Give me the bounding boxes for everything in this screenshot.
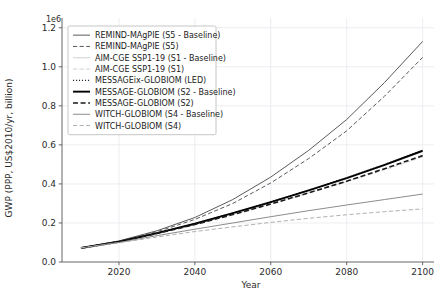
- legend-label-7: WITCH-GLOBIOM (S4 - Baseline): [95, 110, 223, 119]
- x-tick-label: 2080: [335, 267, 358, 277]
- legend-label-8: WITCH-GLOBIOM (S4): [95, 122, 181, 131]
- series-line-2: [81, 152, 423, 248]
- legend-label-6: MESSAGE-GLOBIOM (S2): [95, 99, 194, 108]
- legend-item-2[interactable]: AIM-CGE SSP1-19 (S1 - Baseline): [73, 54, 226, 63]
- legend-label-4: MESSAGEix-GLOBIOM (LED): [95, 76, 206, 85]
- series-line-4: [81, 150, 423, 248]
- legend-item-0[interactable]: REMIND-MAgPIE (S5 - Baseline): [73, 31, 220, 40]
- legend-item-5[interactable]: MESSAGE-GLOBIOM (S2 - Baseline): [73, 88, 236, 97]
- x-axis-title: Year: [240, 280, 260, 290]
- series-line-3: [81, 157, 423, 248]
- x-tick-label: 2060: [259, 267, 282, 277]
- y-tick-label: 1.0: [42, 62, 57, 72]
- x-tick-label: 2020: [107, 267, 130, 277]
- y-tick-label: 0.4: [42, 179, 57, 189]
- y-axis-offset-label: 1e6: [46, 15, 61, 24]
- y-tick-label: 0.0: [42, 257, 57, 267]
- figure-canvas: 0.00.20.40.60.81.01.22020204020602080210…: [0, 0, 444, 299]
- legend-label-2: AIM-CGE SSP1-19 (S1 - Baseline): [95, 54, 226, 63]
- legend[interactable]: REMIND-MAgPIE (S5 - Baseline)REMIND-MAgP…: [68, 26, 236, 135]
- x-tick-label: 2040: [183, 267, 206, 277]
- legend-label-5: MESSAGE-GLOBIOM (S2 - Baseline): [95, 88, 236, 97]
- legend-label-1: REMIND-MAgPIE (S5): [95, 42, 179, 51]
- x-tick-label: 2100: [411, 267, 434, 277]
- legend-label-3: AIM-CGE SSP1-19 (S1): [95, 65, 184, 74]
- y-tick-label: 1.2: [42, 23, 56, 33]
- series-line-8: [81, 209, 423, 248]
- legend-label-0: REMIND-MAgPIE (S5 - Baseline): [95, 31, 220, 40]
- y-tick-label: 0.8: [42, 101, 57, 111]
- series-line-7: [81, 194, 423, 248]
- y-tick-label: 0.6: [42, 140, 57, 150]
- legend-item-7[interactable]: WITCH-GLOBIOM (S4 - Baseline): [73, 110, 223, 119]
- y-tick-label: 0.2: [42, 218, 56, 228]
- series-line-5: [81, 151, 423, 248]
- y-axis-title: GWP (PPP, US$2010/yr, billion): [4, 79, 14, 218]
- gwp-line-chart: 0.00.20.40.60.81.01.22020204020602080210…: [0, 0, 444, 299]
